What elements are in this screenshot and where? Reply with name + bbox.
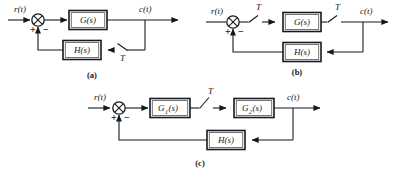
diagram-a-minus-sign: − xyxy=(43,24,49,35)
diagram-a-plus-sign: + xyxy=(30,24,36,35)
diagram-c-switch[interactable] xyxy=(190,98,226,109)
diagram-a-forward-block-label: G(s) xyxy=(80,15,96,25)
diagram-b: r(t) + − T G(s) T c(t) xyxy=(206,2,388,77)
diagram-c-feedback-block: H(s) xyxy=(207,131,245,150)
diagram-b-switch-1[interactable] xyxy=(239,16,275,23)
diagram-b-feedback-block: H(s) xyxy=(283,43,321,62)
diagram-a-feedback-block-label: H(s) xyxy=(73,45,90,55)
diagram-c-switch-label: T xyxy=(208,86,214,96)
diagram-b-plus-sign: + xyxy=(225,26,231,37)
diagram-c-forward-block-1-label: G xyxy=(158,103,165,113)
diagram-a-switch[interactable] xyxy=(108,44,145,51)
diagram-c-input-label: r(t) xyxy=(94,92,106,102)
diagram-a-caption: (a) xyxy=(87,70,97,80)
diagram-a-feedback-wire xyxy=(38,27,63,50)
diagram-b-forward-block: G(s) xyxy=(283,13,321,32)
block-diagram-figure: r(t) + − G(s) c(t) T xyxy=(0,0,396,180)
diagram-c-forward-block-2-label: G xyxy=(242,103,249,113)
diagram-b-caption: (b) xyxy=(292,67,303,77)
diagram-c-minus-sign: − xyxy=(124,112,130,123)
diagram-a-forward-block: G(s) xyxy=(69,11,107,30)
diagram-c-forward-block-1: G 1 (s) xyxy=(150,99,190,118)
diagram-c-feedback-block-label: H(s) xyxy=(217,135,234,145)
diagram-c-caption: (c) xyxy=(195,158,205,168)
diagram-b-switch-2-label: T xyxy=(335,2,341,12)
diagram-c-forward-block-1-suffix: (s) xyxy=(169,103,179,113)
diagram-c-plus-sign: + xyxy=(111,112,117,123)
diagram-b-output-label: c(t) xyxy=(360,6,373,16)
figure-container: r(t) + − G(s) c(t) T xyxy=(0,0,396,180)
diagram-c-feedback-wire-left xyxy=(119,115,207,140)
diagram-a-output-label: c(t) xyxy=(139,4,152,14)
diagram-c: r(t) + − G 1 (s) T G xyxy=(88,86,320,168)
diagram-c-output-label: c(t) xyxy=(287,92,300,102)
diagram-b-forward-block-label: G(s) xyxy=(294,17,310,27)
diagram-a: r(t) + − G(s) c(t) T xyxy=(8,4,178,80)
diagram-c-forward-block-2-suffix: (s) xyxy=(253,103,263,113)
diagram-c-forward-block-2: G 2 (s) xyxy=(234,99,274,118)
diagram-b-minus-sign: − xyxy=(238,26,244,37)
diagram-a-input-label: r(t) xyxy=(14,4,26,14)
diagram-b-feedback-block-label: H(s) xyxy=(293,47,310,57)
diagram-b-input-label: r(t) xyxy=(211,6,223,16)
diagram-a-feedback-block: H(s) xyxy=(63,41,101,60)
diagram-b-switch-2[interactable] xyxy=(321,16,388,23)
diagram-a-switch-label: T xyxy=(120,53,126,63)
diagram-b-switch-1-label: T xyxy=(256,2,262,12)
